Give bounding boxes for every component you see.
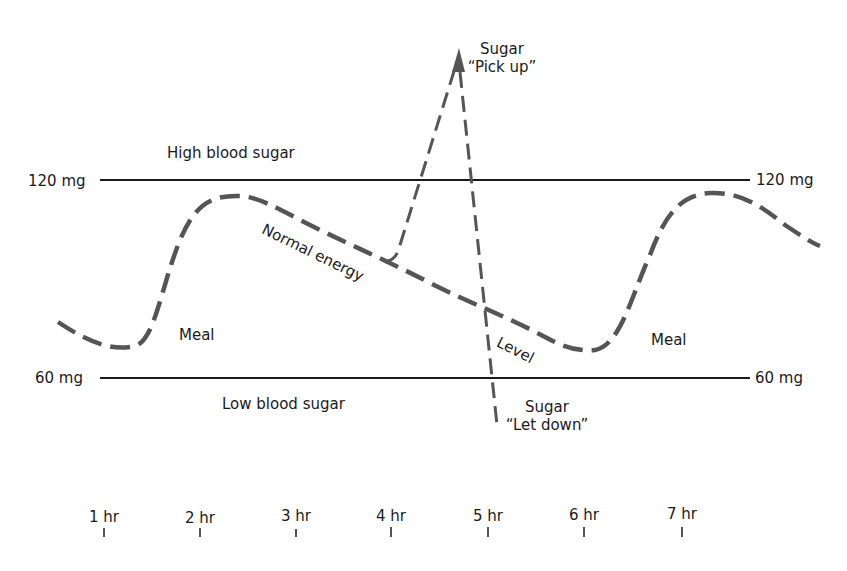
meal-label-1: Meal <box>179 328 215 343</box>
sugar-pick-up-label: Sugar “Pick up” <box>462 42 542 75</box>
low-threshold-left-label: 60 mg <box>35 371 83 386</box>
time-tick-7hr: 7 hr <box>667 507 697 522</box>
normal-energy-curve <box>58 193 820 350</box>
time-tick-1hr: 1 hr <box>89 510 119 525</box>
sugar-let-down-line1: Sugar <box>497 400 597 415</box>
sugar-let-down-line2: “Let down” <box>497 418 597 433</box>
time-tick-3hr: 3 hr <box>281 509 311 524</box>
meal-label-2: Meal <box>651 333 687 348</box>
low-blood-sugar-label: Low blood sugar <box>222 397 345 412</box>
sugar-let-down-line <box>460 72 497 425</box>
high-blood-sugar-label: High blood sugar <box>167 146 295 161</box>
high-threshold-right-label: 120 mg <box>756 173 814 188</box>
time-tick-4hr: 4 hr <box>376 509 406 524</box>
time-tick-2hr: 2 hr <box>185 511 215 526</box>
time-tick-5hr: 5 hr <box>473 509 503 524</box>
sugar-pick-up-line1: Sugar <box>462 42 542 57</box>
sugar-let-down-label: Sugar “Let down” <box>497 400 597 433</box>
blood-sugar-diagram <box>0 0 847 571</box>
time-tick-6hr: 6 hr <box>569 508 599 523</box>
high-threshold-left-label: 120 mg <box>28 174 86 189</box>
time-axis-ticks <box>104 527 682 537</box>
sugar-pick-up-line <box>385 68 455 262</box>
low-threshold-right-label: 60 mg <box>755 371 803 386</box>
sugar-pick-up-line2: “Pick up” <box>462 60 542 75</box>
